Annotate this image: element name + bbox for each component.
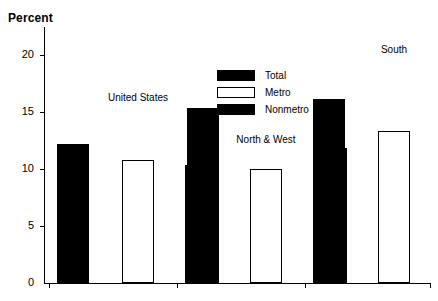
bar xyxy=(313,99,345,283)
bar xyxy=(57,144,89,283)
legend-label: Total xyxy=(265,70,286,81)
legend-item: Total xyxy=(217,68,309,83)
x-tick-mark xyxy=(177,283,178,288)
bar xyxy=(250,169,282,283)
y-tick-label: 0 xyxy=(8,276,34,288)
legend-label: Metro xyxy=(265,87,291,98)
legend-item: Metro xyxy=(217,85,309,100)
x-tick-mark xyxy=(305,283,306,288)
legend-label: Nonmetro xyxy=(265,104,309,115)
x-axis-line xyxy=(44,283,430,284)
group-label: United States xyxy=(108,92,168,103)
bar xyxy=(122,160,154,283)
y-axis-title: Percent xyxy=(8,11,53,25)
x-tick-mark xyxy=(430,283,431,288)
legend-item: Nonmetro xyxy=(217,102,309,117)
bar-chart: Percent 05101520 United StatesNorth & We… xyxy=(0,0,438,301)
x-tick-mark xyxy=(49,283,50,288)
legend-swatch xyxy=(217,87,255,98)
chart-legend: TotalMetroNonmetro xyxy=(217,68,309,119)
bar xyxy=(185,165,217,283)
legend-swatch xyxy=(217,104,255,115)
legend-swatch xyxy=(217,70,255,81)
y-tick-label: 10 xyxy=(8,162,34,174)
plot-area xyxy=(45,27,430,283)
group-label: North & West xyxy=(236,134,295,145)
y-tick-label: 20 xyxy=(8,48,34,60)
y-tick-label: 15 xyxy=(8,105,34,117)
y-tick-label: 5 xyxy=(8,219,34,231)
bar xyxy=(378,131,410,283)
group-label: South xyxy=(381,44,407,55)
